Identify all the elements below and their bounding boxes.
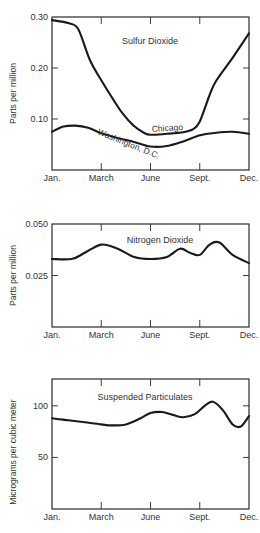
y-tick-label: 0.10 [30,114,48,124]
y-axis-label: Parts per million [8,245,18,306]
x-tick-label: Sept. [189,173,210,183]
figure-canvas: Jan.MarchJuneSept.Dec.0.100.200.30Parts … [0,0,260,533]
series-line-washington-d-c [52,126,249,147]
x-tick-label: June [141,330,161,340]
y-tick-label: 0.050 [25,219,48,229]
x-tick-label: Sept. [189,330,210,340]
series-line-suspended-particulates [52,402,249,428]
x-tick-label: March [89,173,114,183]
x-tick-label: Jan. [43,330,60,340]
x-tick-label: Dec. [240,512,259,522]
chart-nitrogen-dioxide: Jan.MarchJuneSept.Dec.0.0250.050Parts pe… [8,219,258,340]
chart-title: Suspended Particulates [97,392,193,402]
y-tick-label: 50 [38,452,48,462]
x-tick-label: Jan. [43,173,60,183]
x-tick-label: June [141,173,161,183]
x-tick-label: Jan. [43,512,60,522]
x-tick-label: March [89,330,114,340]
x-tick-label: March [89,512,114,522]
x-tick-label: Sept. [189,512,210,522]
chart-title: Nitrogen Dioxide [127,235,194,245]
x-tick-label: Dec. [240,173,259,183]
y-tick-label: 0.30 [30,12,48,22]
chart-suspended-particulates: Jan.MarchJuneSept.Dec.50100Micrograms pe… [8,379,258,522]
y-tick-label: 0.025 [25,271,48,281]
y-tick-label: 0.20 [30,63,48,73]
y-tick-label: 100 [33,401,48,411]
chart-title: Sulfur Dioxide [122,36,178,46]
y-axis-label: Parts per million [8,63,18,124]
chart-sulfur-dioxide: Jan.MarchJuneSept.Dec.0.100.200.30Parts … [8,12,258,183]
y-axis-label: Micrograms per cubic meter [8,399,18,505]
x-tick-label: Dec. [240,330,259,340]
x-tick-label: June [141,512,161,522]
